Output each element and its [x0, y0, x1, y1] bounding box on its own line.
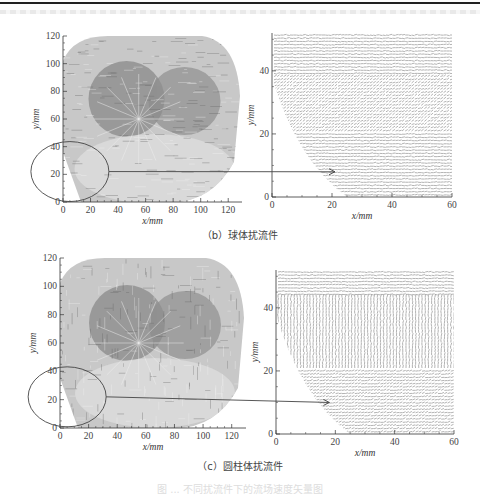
- velocity-vector: [322, 94, 324, 96]
- velocity-vector: [424, 166, 427, 167]
- velocity-vector: [437, 92, 440, 93]
- velocity-vector: [304, 428, 307, 429]
- velocity-vector: [319, 127, 322, 128]
- velocity-vector: [424, 85, 427, 87]
- velocity-vector: [377, 359, 378, 362]
- velocity-vector: [348, 162, 351, 163]
- velocity-vector: [322, 120, 325, 121]
- velocity-vector: [405, 50, 408, 51]
- velocity-vector: [329, 414, 332, 416]
- velocity-vector: [312, 166, 315, 167]
- velocity-vector: [341, 104, 344, 105]
- velocity-vector: [316, 104, 318, 106]
- velocity-vector: [370, 194, 373, 195]
- velocity-vector: [386, 81, 388, 83]
- velocity-vector: [434, 114, 437, 115]
- velocity-vector: [332, 114, 335, 115]
- velocity-vector: [421, 47, 424, 48]
- velocity-vector: [399, 323, 400, 326]
- velocity-vector: [303, 153, 306, 154]
- velocity-vector: [278, 402, 281, 404]
- velocity-vector: [421, 113, 423, 115]
- velocity-vector: [293, 120, 295, 122]
- velocity-vector: [361, 415, 364, 416]
- x-tick-label: 40: [390, 437, 400, 447]
- velocity-vector: [297, 330, 298, 333]
- velocity-vector: [296, 92, 299, 93]
- velocity-vector: [310, 415, 313, 416]
- velocity-vector: [396, 427, 399, 429]
- velocity-vector: [354, 160, 357, 161]
- velocity-vector: [406, 424, 409, 425]
- velocity-vector: [415, 194, 418, 195]
- velocity-vector: [399, 124, 402, 125]
- velocity-vector: [329, 301, 330, 304]
- velocity-vector: [320, 418, 323, 419]
- velocity-vector: [399, 175, 402, 176]
- velocity-vector: [434, 104, 437, 106]
- velocity-vector: [341, 53, 344, 54]
- velocity-vector: [438, 295, 439, 298]
- velocity-vector: [297, 278, 300, 279]
- velocity-vector: [450, 114, 453, 115]
- velocity-vector: [335, 73, 338, 74]
- velocity-vector: [399, 140, 402, 141]
- velocity-vector: [370, 60, 373, 61]
- velocity-vector: [332, 370, 335, 371]
- velocity-vector: [405, 91, 408, 92]
- velocity-vector: [322, 91, 324, 93]
- velocity-vector: [329, 371, 332, 372]
- velocity-vector: [344, 107, 347, 109]
- velocity-vector: [344, 51, 347, 52]
- velocity-vector: [278, 336, 279, 339]
- velocity-vector: [399, 103, 401, 105]
- velocity-vector: [291, 431, 294, 432]
- velocity-vector: [405, 116, 407, 118]
- velocity-vector: [355, 356, 356, 359]
- velocity-vector: [320, 415, 323, 416]
- velocity-vector: [403, 418, 406, 420]
- velocity-vector: [304, 320, 305, 323]
- velocity-vector: [424, 105, 427, 106]
- velocity-vector: [405, 121, 408, 122]
- velocity-vector: [284, 34, 287, 35]
- velocity-vector: [386, 123, 389, 125]
- velocity-vector: [348, 349, 349, 352]
- velocity-vector: [336, 421, 339, 422]
- velocity-vector: [437, 126, 440, 128]
- velocity-vector: [300, 330, 301, 333]
- velocity-vector: [352, 339, 353, 342]
- velocity-vector: [384, 386, 387, 387]
- velocity-vector: [335, 64, 338, 65]
- velocity-vector: [348, 291, 351, 292]
- velocity-vector: [325, 82, 328, 83]
- velocity-vector: [396, 380, 399, 381]
- velocity-vector: [364, 185, 367, 186]
- velocity-vector: [274, 129, 276, 131]
- velocity-vector: [392, 140, 395, 141]
- velocity-vector: [406, 421, 409, 422]
- velocity-vector: [432, 371, 435, 372]
- x-axis-label: x/mm: [141, 216, 163, 226]
- velocity-vector: [293, 191, 296, 192]
- velocity-vector: [297, 349, 298, 352]
- velocity-vector: [400, 336, 401, 339]
- velocity-vector: [444, 396, 447, 397]
- velocity-vector: [377, 311, 378, 314]
- velocity-vector: [432, 311, 433, 314]
- velocity-vector: [323, 431, 326, 432]
- velocity-vector: [403, 377, 406, 378]
- velocity-vector: [310, 389, 313, 391]
- velocity-vector: [389, 126, 391, 128]
- velocity-vector: [326, 284, 329, 285]
- velocity-vector: [402, 91, 405, 92]
- velocity-vector: [386, 57, 389, 58]
- velocity-vector: [380, 295, 381, 298]
- velocity-vector: [392, 194, 395, 195]
- velocity-vector: [370, 38, 373, 39]
- velocity-vector: [293, 133, 296, 134]
- velocity-vector: [402, 88, 405, 89]
- velocity-vector: [345, 349, 346, 352]
- velocity-vector: [291, 314, 292, 317]
- velocity-vector: [316, 41, 319, 42]
